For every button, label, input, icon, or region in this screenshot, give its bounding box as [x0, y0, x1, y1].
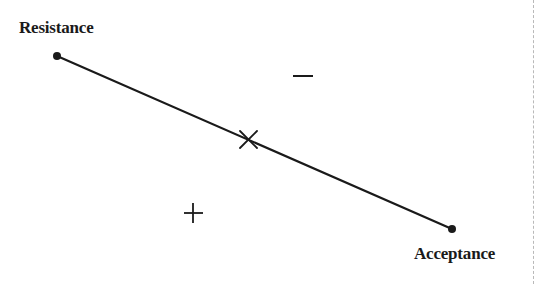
continuum-line — [57, 56, 452, 229]
start-point-dot-icon — [53, 52, 61, 60]
acceptance-label: Acceptance — [414, 245, 495, 262]
resistance-acceptance-diagram: Resistance Acceptance — [0, 0, 535, 284]
page-edge-divider — [533, 0, 534, 284]
end-point-dot-icon — [448, 225, 456, 233]
midpoint-x-marker-icon — [240, 131, 257, 148]
resistance-label: Resistance — [19, 19, 93, 36]
continuum-canvas — [0, 0, 535, 284]
plus-sign-icon — [184, 203, 203, 223]
